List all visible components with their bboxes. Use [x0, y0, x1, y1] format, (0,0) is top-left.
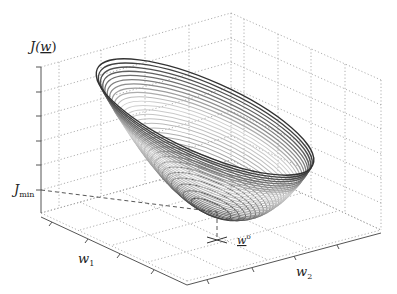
optimal-weight-marker [207, 237, 227, 243]
w-opt-label: wo [237, 233, 251, 247]
w1-label: w1 [78, 251, 94, 268]
cost-surface-plot: J(w) Jmin w1 w2 wo [0, 0, 397, 294]
w1-axis [41, 217, 187, 285]
w2-label: w2 [296, 264, 312, 281]
w2-axis [187, 233, 381, 285]
jmin-label: Jmin [11, 182, 35, 199]
z-axis-label: J(w) [27, 39, 57, 54]
